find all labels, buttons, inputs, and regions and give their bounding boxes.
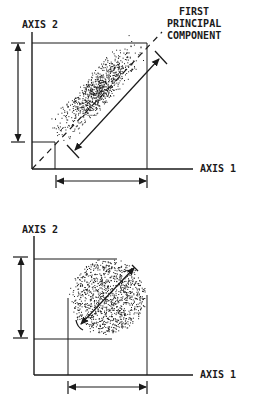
bottom-vertical-range-arrow (13, 257, 28, 338)
top-diagram: AXIS 2 AXIS 1 FIRST PRINCIPAL COMPONENT (11, 6, 236, 188)
top-horizontal-range-arrow (56, 175, 147, 188)
annotation-line-1: FIRST (179, 6, 209, 17)
top-x-axis-label: AXIS 1 (200, 163, 236, 174)
annotation-line-3: COMPONENT (167, 30, 221, 41)
top-y-axis-label: AXIS 2 (22, 19, 58, 30)
bottom-scatter-cloud (69, 260, 146, 336)
pca-illustration: AXIS 2 AXIS 1 FIRST PRINCIPAL COMPONENT (0, 0, 256, 406)
top-vertical-range-arrow (11, 43, 25, 142)
bottom-y-axis-label: AXIS 2 (22, 224, 58, 235)
bottom-horizontal-range-arrow (68, 381, 147, 394)
bottom-x-axis-label: AXIS 1 (200, 369, 236, 380)
bottom-diagram: AXIS 2 AXIS 1 (13, 224, 236, 394)
annotation-line-2: PRINCIPAL (167, 18, 221, 29)
